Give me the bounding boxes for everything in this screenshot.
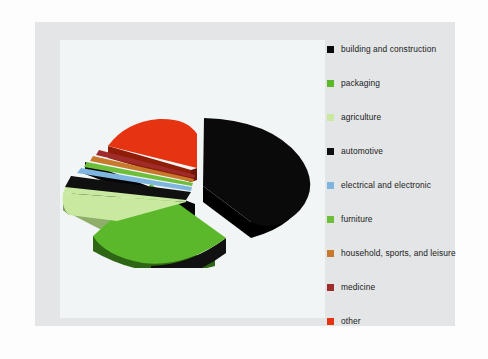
legend-swatch-icon: [327, 80, 334, 87]
legend-item-packaging[interactable]: packaging: [327, 66, 485, 100]
legend-label: other: [341, 317, 361, 325]
legend-swatch-icon: [327, 182, 334, 189]
pie-top-faces: [63, 118, 311, 264]
legend-label: automotive: [341, 147, 383, 155]
legend-item-electrical-and-electronic[interactable]: electrical and electronic: [327, 168, 485, 202]
legend-item-agriculture[interactable]: agriculture: [327, 100, 485, 134]
legend-label: medicine: [341, 283, 375, 291]
chart-screenshot: building and construction packaging agri…: [0, 0, 488, 359]
legend-label: furniture: [341, 215, 373, 223]
legend-swatch-icon: [327, 284, 334, 291]
legend-item-automotive[interactable]: automotive: [327, 134, 485, 168]
legend-item-other[interactable]: other: [327, 304, 485, 338]
legend: building and construction packaging agri…: [327, 32, 485, 338]
pie-chart: [55, 88, 330, 268]
legend-label: agriculture: [341, 113, 381, 121]
legend-swatch-icon: [327, 318, 334, 325]
legend-label: electrical and electronic: [341, 181, 431, 189]
legend-label: building and construction: [341, 45, 436, 53]
pie-svg: [55, 88, 330, 268]
legend-item-furniture[interactable]: furniture: [327, 202, 485, 236]
legend-label: packaging: [341, 79, 380, 87]
legend-swatch-icon: [327, 148, 334, 155]
legend-item-building-and-construction[interactable]: building and construction: [327, 32, 485, 66]
legend-swatch-icon: [327, 216, 334, 223]
legend-item-household-sports-and-leisure[interactable]: household, sports, and leisure: [327, 236, 485, 270]
legend-swatch-icon: [327, 250, 334, 257]
legend-swatch-icon: [327, 114, 334, 121]
legend-label: household, sports, and leisure: [341, 249, 456, 257]
legend-item-medicine[interactable]: medicine: [327, 270, 485, 304]
legend-swatch-icon: [327, 46, 334, 53]
